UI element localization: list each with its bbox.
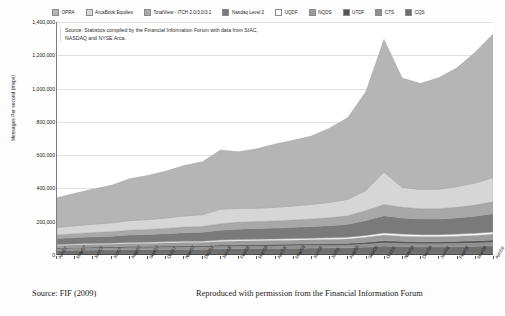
legend-swatch-icon [375, 9, 382, 16]
chart-legend: OPRAArcaBook EquitiesTotalView - ITCH 2.… [52, 6, 504, 19]
legend-swatch-icon [144, 9, 151, 16]
legend-swatch-icon [309, 9, 316, 16]
legend-label: NQDS [318, 10, 331, 16]
legend-item: CQS [405, 9, 425, 16]
legend-item: CTS [375, 9, 394, 16]
legend-label: OPRA [62, 10, 75, 16]
x-axis-tick-labels: Apr/07May/07Jun/07Jul/07Aug/07Sep/07Oct/… [56, 256, 493, 286]
legend-swatch-icon [52, 9, 59, 16]
y-tick-label: 800,000 [37, 119, 55, 125]
y-tick-label: 1,000,000 [32, 86, 55, 92]
legend-item: OPRA [52, 9, 75, 16]
legend-item: UTDF [343, 9, 365, 16]
legend-swatch-icon [222, 9, 229, 16]
caption-permission: Reproduced with permission from the Fina… [196, 289, 423, 298]
legend-item: UQDF [275, 9, 298, 16]
y-tick-label: 600,000 [37, 152, 55, 158]
y-tick-label: 0 [52, 252, 55, 258]
legend-item: Nasdaq Level 2 [222, 9, 264, 16]
legend-item: NQDS [309, 9, 332, 16]
legend-item: ArcaBook Equities [86, 9, 133, 16]
legend-swatch-icon [86, 9, 93, 16]
legend-swatch-icon [343, 9, 350, 16]
y-tick-label: 1,200,000 [32, 52, 55, 58]
legend-label: CTS [385, 10, 394, 16]
legend-swatch-icon [405, 9, 412, 16]
legend-label: CQS [415, 10, 425, 16]
legend-item: TotalView - ITCH 2.0/3.0/3.1 [144, 9, 211, 16]
y-tick-label: 200,000 [37, 219, 55, 225]
legend-label: UTDF [352, 10, 364, 16]
source-annotation-box: Source: Statistics compiled by the Finan… [60, 26, 280, 42]
legend-label: ArcaBook Equities [95, 10, 133, 16]
y-axis-tick-labels: 0200,000400,000600,000800,0001,000,0001,… [14, 17, 55, 260]
legend-label: Nasdaq Level 2 [232, 10, 264, 16]
legend-label: UQDF [285, 10, 298, 16]
x-tick-label: Apr/09 [494, 246, 505, 260]
legend-label: TotalView - ITCH 2.0/3.0/3.1 [153, 10, 211, 16]
y-tick-label: 1,400,000 [32, 19, 55, 25]
legend-swatch-icon [275, 9, 282, 16]
figure-caption: Source: FIF (2009) Reproduced with permi… [0, 289, 504, 311]
y-tick-label: 400,000 [37, 185, 55, 191]
plot-area [56, 22, 493, 255]
caption-source: Source: FIF (2009) [32, 289, 96, 298]
stacked-area-chart [57, 22, 493, 254]
y-axis-title: Messages Per second (msps) [10, 48, 16, 168]
